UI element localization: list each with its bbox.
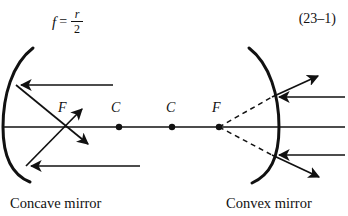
convex-mirror-group [160, 48, 345, 183]
convex-reflected-ray-upper [272, 76, 318, 97]
concave-center-of-curvature-point [116, 124, 122, 130]
concave-focal-point-label: F [58, 100, 67, 116]
convex-mirror-caption: Convex mirror [226, 195, 312, 212]
figure-page: f = r 2 (23–1) [0, 0, 348, 216]
convex-center-of-curvature-point [169, 124, 175, 130]
convex-reflected-ray-lower [272, 155, 319, 177]
concave-center-point-label: C [111, 100, 120, 116]
convex-center-point-label: C [166, 100, 175, 116]
concave-mirror-arc [3, 48, 33, 182]
concave-mirror-group [3, 48, 160, 182]
convex-virtual-ray-upper-dashed [219, 97, 272, 127]
convex-focal-point-label: F [212, 100, 221, 116]
convex-focal-point [216, 124, 222, 130]
convex-mirror-arc [249, 48, 279, 183]
concave-reflected-ray-lower [26, 109, 82, 166]
convex-virtual-ray-lower-dashed [219, 127, 272, 155]
concave-mirror-caption: Concave mirror [10, 195, 101, 212]
